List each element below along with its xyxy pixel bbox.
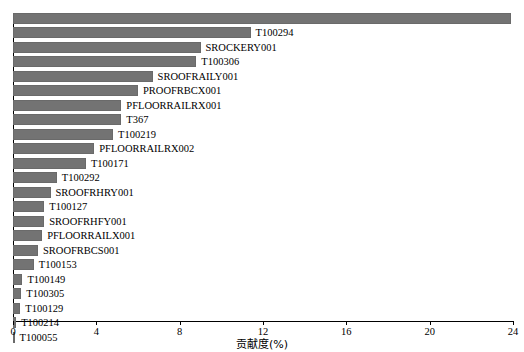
bar xyxy=(13,201,44,212)
x-tick-label: 24 xyxy=(508,325,519,338)
bar xyxy=(13,100,121,111)
bar-label: SROOFRAILY001 xyxy=(158,70,239,83)
x-tick-label: 8 xyxy=(177,325,182,338)
x-tick-label: 20 xyxy=(424,325,435,338)
x-tick-label: 0 xyxy=(10,325,15,338)
bar xyxy=(13,71,153,82)
bar xyxy=(13,56,196,67)
bar xyxy=(13,143,94,154)
bar-label: T100153 xyxy=(39,258,77,271)
bar xyxy=(13,187,51,198)
bar-label: T100306 xyxy=(201,55,239,68)
bar xyxy=(13,13,511,24)
bar-label: T100292 xyxy=(62,171,100,184)
bar-label: T100219 xyxy=(118,128,156,141)
bar xyxy=(13,129,113,140)
bar xyxy=(13,172,57,183)
bar xyxy=(13,245,38,256)
x-tick-label: 4 xyxy=(94,325,99,338)
plot-area: T100294SROCKERY001T100306SROOFRAILY001PR… xyxy=(0,8,524,313)
x-axis-title: 贡献度(%) xyxy=(0,338,524,352)
bar xyxy=(13,288,21,299)
bar xyxy=(13,114,121,125)
bar-label: PFLOORRAILRX001 xyxy=(126,99,221,112)
bar-label: T100127 xyxy=(49,200,87,213)
x-tick-label: 16 xyxy=(341,325,352,338)
bar xyxy=(13,259,34,270)
bar-label: SROOFRBCS001 xyxy=(43,244,119,257)
bar-label: PROOFRBCX001 xyxy=(143,84,221,97)
bar xyxy=(13,303,20,314)
bar-label: T100294 xyxy=(256,26,294,39)
bar-label: SROOFRHRY001 xyxy=(56,186,134,199)
chart-title xyxy=(6,0,306,5)
x-tick-label: 12 xyxy=(258,325,269,338)
bar-label: T367 xyxy=(126,113,148,126)
bar-label: T100305 xyxy=(26,287,64,300)
bar-label: T100149 xyxy=(27,273,65,286)
bar-label: PFLOORRAILX001 xyxy=(47,229,135,242)
bar xyxy=(13,274,22,285)
bar xyxy=(13,230,42,241)
bar xyxy=(13,27,251,38)
bar-label: SROOFRHFY001 xyxy=(49,215,127,228)
bar xyxy=(13,85,138,96)
bar-label: T100214 xyxy=(21,316,59,329)
bar-label: PFLOORRAILRX002 xyxy=(99,142,194,155)
bar xyxy=(13,42,201,53)
bar xyxy=(13,216,44,227)
bar xyxy=(13,158,86,169)
bar-label: T100171 xyxy=(91,157,129,170)
bar-label: T100129 xyxy=(25,302,63,315)
bar-label: SROCKERY001 xyxy=(206,41,277,54)
